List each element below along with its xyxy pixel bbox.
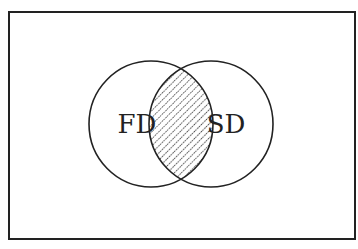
venn-diagram: FD SD <box>0 0 358 249</box>
set-sd-label: SD <box>207 109 246 139</box>
set-fd-label: FD <box>118 109 157 139</box>
